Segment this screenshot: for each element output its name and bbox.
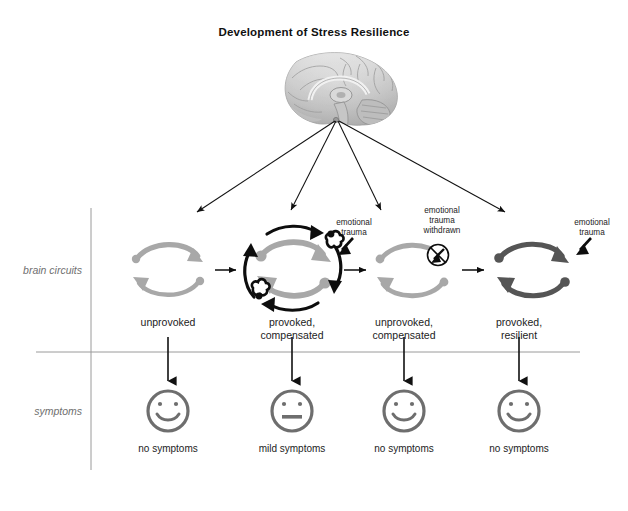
row-label-brain-circuits: brain circuits: [0, 264, 82, 276]
face-smile-3: [384, 391, 424, 431]
circuit-unprovoked: [132, 244, 204, 295]
circuit-label-provoked-compensated: provoked, compensated: [232, 316, 352, 342]
circuit-label-line-2: compensated: [232, 329, 352, 342]
plasticity-dot: [256, 293, 263, 300]
brain-sagittal-illustration: [280, 48, 405, 130]
circuit-to-symptom-arrows: [168, 337, 519, 381]
annotation-line-2: trauma: [406, 216, 478, 226]
annotation-emotional-trauma-stage4: emotional trauma: [556, 218, 628, 238]
trauma-arrow-icon-stage4: [576, 238, 591, 255]
brain-fanout-arrows: [197, 121, 505, 212]
symptom-label-1: no symptoms: [108, 443, 228, 455]
circuit-label-unprovoked: unprovoked: [108, 316, 228, 329]
circuit-provoked-compensated: [243, 225, 344, 312]
diagram-graphics: [0, 0, 628, 511]
circuit-label-line-1: provoked,: [232, 316, 352, 329]
circuit-label-line-2: resilient: [459, 329, 579, 342]
circuit-provoked-resilient: [494, 244, 570, 296]
circuit-label-line-1: unprovoked,: [344, 316, 464, 329]
trauma-withdrawn-negated-arrow-icon: [428, 245, 449, 266]
annotation-emotional-trauma-stage2: emotional trauma: [318, 218, 390, 238]
face-neutral-2: [272, 391, 312, 431]
symptom-label-3: no symptoms: [344, 443, 464, 455]
circuit-label-line-1: provoked,: [459, 316, 579, 329]
figure-canvas: Development of Stress Resilience: [0, 0, 628, 511]
annotation-line-3: withdrawn: [406, 226, 478, 236]
symptom-label-4: no symptoms: [459, 443, 579, 455]
fanout-arrow-2: [291, 121, 336, 210]
annotation-line-1: emotional: [406, 206, 478, 216]
annotation-line-2: trauma: [556, 228, 628, 238]
circuit-label-unprovoked-compensated: unprovoked, compensated: [344, 316, 464, 342]
symptom-faces: [148, 391, 539, 431]
annotation-line-1: emotional: [318, 218, 390, 228]
annotation-emotional-trauma-withdrawn: emotional trauma withdrawn: [406, 206, 478, 236]
annotation-line-2: trauma: [318, 228, 390, 238]
fanout-arrow-4: [339, 121, 505, 212]
face-smile-4: [499, 391, 539, 431]
circuit-label-line-2: compensated: [344, 329, 464, 342]
face-smile-1: [148, 391, 188, 431]
annotation-line-1: emotional: [556, 218, 628, 228]
fanout-arrow-1: [197, 121, 335, 212]
row-label-symptoms: symptoms: [0, 405, 82, 417]
fanout-arrow-3: [338, 121, 381, 210]
symptom-label-2: mild symptoms: [232, 443, 352, 455]
circuit-label-provoked-resilient: provoked, resilient: [459, 316, 579, 342]
